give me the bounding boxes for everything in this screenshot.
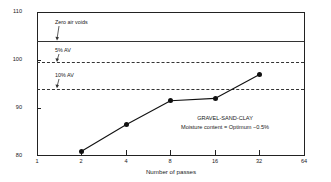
compaction-chart-figure: Relative compaction value (per cent) Num… [0,0,331,182]
data-point [79,149,84,154]
annotation-material: GRAVEL-SAND-CLAY [165,114,285,123]
series-annotation: GRAVEL-SAND-CLAY Moisture content = Opti… [165,114,285,132]
data-point [213,96,218,101]
data-series-line [0,0,331,182]
data-point [257,72,262,77]
data-point [124,122,129,127]
annotation-moisture: Moisture content = Optimum −0.5% [165,123,285,132]
